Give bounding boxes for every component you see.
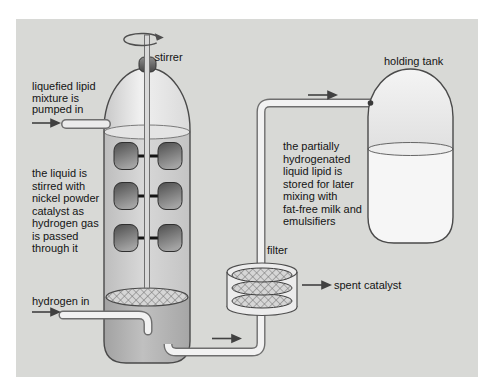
annotation-line: hydrogen gas [32, 217, 99, 229]
sparger-plate [106, 288, 188, 306]
annotation-line: through it [32, 242, 78, 254]
pipe-connection-dot [368, 100, 374, 106]
stirrer-shaft [145, 35, 150, 288]
annotation-line: hydrogenated [283, 153, 350, 165]
filter-disk [232, 294, 292, 308]
annotation-line: stirred with [32, 180, 85, 192]
annotation-line: emulsifiers [283, 215, 336, 227]
filter-disk [232, 268, 292, 282]
annotation-line: mixing with [283, 190, 337, 202]
annotation-line: the liquid is [32, 167, 88, 179]
hydrogenation-process-diagram: stirrer holding tank filter spent cataly… [0, 0, 493, 392]
annotation-line: nickel powder [32, 192, 100, 204]
annotation-line: fat-free milk and [283, 203, 362, 215]
diagram-canvas: stirrer holding tank filter spent cataly… [0, 0, 493, 392]
annotation-line: liquefied lipid [32, 80, 96, 92]
annotation-line: is passed [32, 230, 78, 242]
annotation-line: liquid lipid is [283, 165, 343, 177]
annotation-line: stored for later [283, 178, 354, 190]
filter-unit [227, 263, 297, 316]
tank-liquid-surface [368, 143, 453, 156]
paddle [114, 143, 138, 170]
paddle [114, 183, 138, 210]
paddle [158, 183, 182, 210]
filter-label: filter [267, 244, 288, 256]
filter-disk [232, 281, 292, 295]
paddle [158, 143, 182, 170]
paddle [158, 225, 182, 252]
annotation-line: mixture is [32, 92, 80, 104]
storage-annotation: the partially hydrogenated liquid lipid … [283, 140, 362, 227]
stirrer-label: stirrer [155, 51, 183, 63]
spent-catalyst-label: spent catalyst [334, 279, 401, 291]
annotation-line: catalyst as [32, 205, 84, 217]
annotation-line: the partially [283, 140, 340, 152]
hydrogen-in-label: hydrogen in [32, 295, 90, 307]
paddle [114, 225, 138, 252]
holding-tank-label: holding tank [384, 55, 444, 67]
annotation-line: pumped in [32, 103, 83, 115]
holding-tank [368, 69, 453, 243]
tank-liquid [368, 149, 453, 243]
